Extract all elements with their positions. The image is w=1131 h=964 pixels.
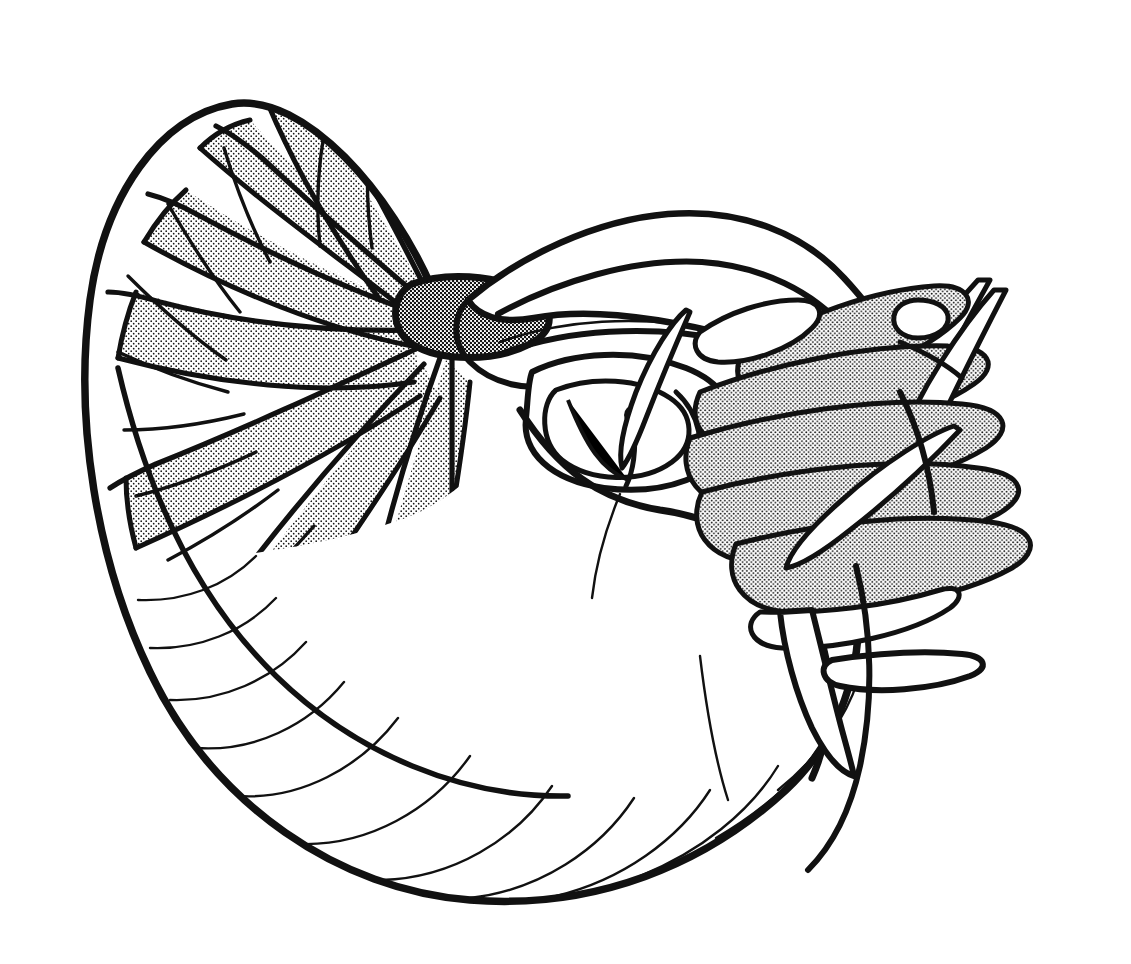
illustration-canvas: Nautilus Chambered nautilus (Nautilus po… [0, 0, 1131, 964]
nautilus-illustration [0, 0, 1131, 964]
